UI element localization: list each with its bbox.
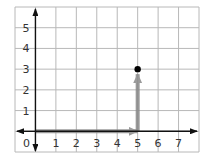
x-tick-label: 7 (175, 137, 182, 150)
plotted-point (134, 66, 140, 72)
y-tick-label: 5 (22, 22, 29, 35)
x-tick-label: 2 (73, 137, 80, 150)
x-tick-label: 5 (134, 137, 141, 150)
y-tick-label: 1 (22, 105, 29, 118)
point-marker (134, 66, 140, 72)
origin-label: 0 (23, 137, 30, 150)
x-tick-label: 4 (114, 137, 121, 150)
x-tick-label: 3 (93, 137, 100, 150)
coordinate-plane: 0123456712345 (0, 0, 207, 162)
y-tick-label: 3 (22, 63, 29, 76)
coordinate-grid-svg: 0123456712345 (0, 0, 207, 162)
y-tick-label: 2 (22, 84, 29, 97)
movement-vectors (35, 74, 137, 131)
y-tick-label: 4 (22, 42, 29, 55)
x-tick-label: 6 (155, 137, 162, 150)
x-tick-label: 1 (52, 137, 59, 150)
